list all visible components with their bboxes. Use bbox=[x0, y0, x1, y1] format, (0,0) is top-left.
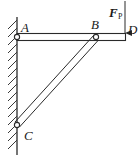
label-a: A bbox=[20, 20, 29, 35]
pin-b bbox=[93, 34, 98, 39]
force-label: F bbox=[108, 5, 118, 20]
label-d: D bbox=[127, 22, 138, 37]
pin-a bbox=[14, 34, 19, 39]
beam-abd bbox=[17, 34, 126, 41]
pin-c bbox=[14, 122, 19, 127]
truss-diagram: A B D C F P bbox=[0, 0, 140, 156]
force-subscript: P bbox=[118, 12, 123, 21]
label-b: B bbox=[91, 17, 99, 32]
bar-bc bbox=[15, 35, 99, 127]
label-c: C bbox=[24, 128, 33, 143]
